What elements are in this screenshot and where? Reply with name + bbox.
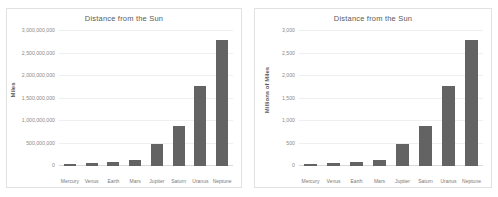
y-tick-label: 2,500: [282, 50, 295, 56]
bar-slot[interactable]: [168, 31, 190, 166]
y-tick-label: 500: [286, 140, 295, 146]
bar-slot[interactable]: [437, 31, 460, 166]
x-label-slot: Earth: [103, 169, 125, 187]
bar-slot[interactable]: [59, 31, 81, 166]
x-axis-category-label: Mercury: [61, 178, 79, 184]
x-label-slot: Saturn: [168, 169, 190, 187]
y-tick-label: 1,500,000,000: [22, 95, 55, 101]
x-label-slot: Mars: [368, 169, 391, 187]
x-label-slot: Mercury: [59, 169, 81, 187]
bar-slot[interactable]: [81, 31, 103, 166]
y-tick-label: 2,500,000,000: [22, 50, 55, 56]
bar-slot[interactable]: [146, 31, 168, 166]
bar[interactable]: [327, 163, 340, 166]
bar[interactable]: [64, 164, 76, 166]
x-axis-category-label: Uranus: [192, 178, 208, 184]
bar-slot[interactable]: [211, 31, 233, 166]
bar-slot[interactable]: [299, 31, 322, 166]
y-tick-label: 0: [52, 162, 55, 168]
bar[interactable]: [107, 162, 119, 166]
x-label-slot: Venus: [322, 169, 345, 187]
bar[interactable]: [86, 163, 98, 166]
plot-area: 0500,000,0001,000,000,0001,500,000,0002,…: [59, 31, 233, 166]
y-tick-label: 2,000: [282, 72, 295, 78]
x-axis-category-label: Uranus: [440, 178, 456, 184]
bar[interactable]: [216, 40, 228, 166]
x-axis-category-label: Mars: [130, 178, 141, 184]
x-label-slot: Neptune: [211, 169, 233, 187]
bar[interactable]: [350, 162, 363, 166]
x-axis-category-label: Mars: [374, 178, 385, 184]
x-axis-category-label: Jupiter: [395, 178, 410, 184]
x-axis-category-label: Earth: [351, 178, 363, 184]
x-axis-category-label: Mercury: [301, 178, 319, 184]
x-axis-category-label: Jupiter: [149, 178, 164, 184]
bar-slot[interactable]: [322, 31, 345, 166]
bar-slot[interactable]: [414, 31, 437, 166]
x-axis-category-label: Neptune: [462, 178, 481, 184]
plot-area: 05001,0001,5002,0002,5003,000 MercuryVen…: [299, 31, 483, 166]
x-axis-category-label: Venus: [327, 178, 341, 184]
bar-series: [299, 31, 483, 166]
x-label-slot: Jupiter: [146, 169, 168, 187]
bar[interactable]: [151, 144, 163, 166]
bar-slot[interactable]: [368, 31, 391, 166]
chart-distance-miles[interactable]: Distance from the Sun Miles 0500,000,000…: [6, 8, 242, 188]
x-label-slot: Mars: [124, 169, 146, 187]
y-tick-label: 1,000,000,000: [22, 117, 55, 123]
y-tick-label: 2,000,000,000: [22, 72, 55, 78]
spreadsheet-chart-area: Distance from the Sun Miles 0500,000,000…: [0, 0, 498, 197]
x-axis-category-label: Saturn: [171, 178, 186, 184]
x-label-slot: Uranus: [437, 169, 460, 187]
x-label-slot: Neptune: [460, 169, 483, 187]
x-axis-category-label: Venus: [85, 178, 99, 184]
bar-slot[interactable]: [190, 31, 212, 166]
y-tick-label: 3,000,000,000: [22, 27, 55, 33]
y-tick-label: 1,500: [282, 95, 295, 101]
x-label-slot: Saturn: [414, 169, 437, 187]
y-axis-title: Miles: [10, 70, 16, 110]
bar[interactable]: [129, 160, 141, 166]
y-axis-title: Millions of Miles: [264, 60, 270, 120]
x-label-slot: Venus: [81, 169, 103, 187]
cropped-header-text: [96, 0, 216, 3]
y-tick-label: 500,000,000: [26, 140, 55, 146]
bar-series: [59, 31, 233, 166]
x-label-slot: Jupiter: [391, 169, 414, 187]
bar[interactable]: [419, 126, 432, 166]
bar[interactable]: [304, 164, 317, 166]
y-tick-label: 1,000: [282, 117, 295, 123]
x-axis-category-label: Earth: [107, 178, 119, 184]
bar-slot[interactable]: [391, 31, 414, 166]
x-axis-category-label: Neptune: [213, 178, 232, 184]
bar[interactable]: [396, 144, 409, 166]
bar[interactable]: [373, 160, 386, 166]
chart-title: Distance from the Sun: [255, 14, 491, 23]
bar[interactable]: [173, 126, 185, 166]
chart-distance-millions-of-miles[interactable]: Distance from the Sun Millions of Miles …: [254, 8, 492, 188]
x-axis-labels: MercuryVenusEarthMarsJupiterSaturnUranus…: [299, 169, 483, 187]
y-tick-label: 3,000: [282, 27, 295, 33]
bar-slot[interactable]: [124, 31, 146, 166]
x-axis-category-label: Saturn: [418, 178, 433, 184]
bar-slot[interactable]: [345, 31, 368, 166]
x-label-slot: Earth: [345, 169, 368, 187]
x-label-slot: Uranus: [190, 169, 212, 187]
bar[interactable]: [442, 86, 455, 166]
x-axis-labels: MercuryVenusEarthMarsJupiterSaturnUranus…: [59, 169, 233, 187]
bar[interactable]: [465, 40, 478, 166]
bar-slot[interactable]: [103, 31, 125, 166]
chart-title: Distance from the Sun: [7, 14, 241, 23]
bar-slot[interactable]: [460, 31, 483, 166]
bar[interactable]: [194, 86, 206, 166]
y-tick-label: 0: [292, 162, 295, 168]
x-label-slot: Mercury: [299, 169, 322, 187]
